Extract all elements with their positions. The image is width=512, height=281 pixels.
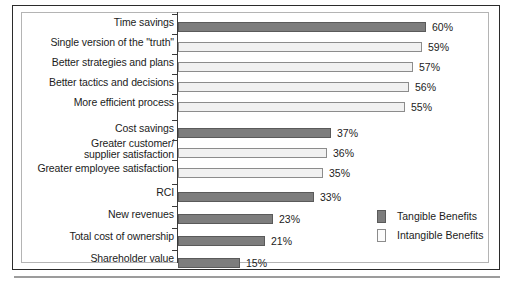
- bar-row: RCI33%: [21, 186, 489, 206]
- bar: [178, 102, 405, 112]
- bar-row: Single version of the "truth"59%: [21, 36, 489, 56]
- legend-swatch-intangible-icon: [377, 229, 386, 242]
- bar-category-label: More efficient process: [24, 97, 174, 108]
- axis-tick: [172, 206, 178, 207]
- bar-value-label: 60%: [432, 22, 453, 33]
- figure-bottom-rule: [14, 276, 500, 278]
- bar-category-label: Total cost of ownership: [24, 231, 174, 242]
- bar-category-label: Cost savings: [24, 123, 174, 134]
- bar-value-label: 21%: [271, 236, 292, 247]
- bar-category-label: Better strategies and plans: [24, 57, 174, 68]
- axis-tick: [172, 184, 178, 185]
- bar-row: Time savings60%: [21, 16, 489, 36]
- axis-tick: [172, 228, 178, 229]
- bar: [178, 128, 331, 138]
- bar-value-label: 37%: [337, 128, 358, 139]
- bar-value-label: 33%: [320, 192, 341, 203]
- axis-tick: [172, 34, 178, 35]
- chart-figure: Time savings60%Single version of the "tr…: [0, 0, 512, 281]
- bar: [178, 22, 426, 32]
- bar-value-label: 35%: [329, 168, 350, 179]
- bar: [178, 168, 323, 178]
- bar: [178, 258, 240, 268]
- bar-row: Better strategies and plans57%: [21, 56, 489, 76]
- bar-row: Better tactics and decisions56%: [21, 76, 489, 96]
- axis-tick: [172, 94, 178, 95]
- bar-row: Greater customer/ supplier satisfaction3…: [21, 142, 489, 162]
- axis-tick: [172, 54, 178, 55]
- legend-label-tangible: Tangible Benefits: [397, 211, 477, 222]
- legend-item-tangible: Tangible Benefits: [377, 208, 497, 227]
- axis-tick: [172, 14, 178, 15]
- legend-item-intangible: Intangible Benefits: [377, 227, 497, 246]
- bar: [178, 148, 327, 158]
- bar-category-label: Greater employee satisfaction: [24, 163, 174, 174]
- bar: [178, 236, 265, 246]
- axis-tick: [172, 74, 178, 75]
- bar-category-label: Time savings: [24, 17, 174, 28]
- bar-category-label: Better tactics and decisions: [24, 77, 174, 88]
- axis-tick: [172, 160, 178, 161]
- axis-tick: [172, 140, 178, 141]
- legend-swatch-tangible-icon: [377, 210, 386, 223]
- bar: [178, 214, 273, 224]
- bar: [178, 62, 413, 72]
- axis-tick: [172, 120, 178, 121]
- bar: [178, 82, 409, 92]
- bar-category-label: Single version of the "truth": [24, 37, 174, 48]
- bar-row: Shareholder value15%: [21, 252, 489, 272]
- bar-category-label: New revenues: [24, 209, 174, 220]
- axis-tick: [172, 250, 178, 251]
- bar-value-label: 55%: [411, 102, 432, 113]
- bar-category-label: Greater customer/ supplier satisfaction: [24, 138, 174, 159]
- bar-value-label: 56%: [415, 82, 436, 93]
- bar-value-label: 23%: [279, 214, 300, 225]
- bar: [178, 42, 422, 52]
- bar-category-label: RCI: [24, 187, 174, 198]
- bar-row: Greater employee satisfaction35%: [21, 162, 489, 182]
- legend-label-intangible: Intangible Benefits: [397, 230, 483, 241]
- bar-value-label: 57%: [419, 62, 440, 73]
- chart-plot-area: Time savings60%Single version of the "tr…: [21, 12, 489, 263]
- bar-category-label: Shareholder value: [24, 253, 174, 264]
- bar-value-label: 15%: [246, 258, 267, 269]
- bar-value-label: 59%: [428, 42, 449, 53]
- chart-legend: Tangible Benefits Intangible Benefits: [377, 208, 497, 246]
- bar-row: More efficient process55%: [21, 96, 489, 116]
- bar-value-label: 36%: [333, 148, 354, 159]
- bar: [178, 192, 314, 202]
